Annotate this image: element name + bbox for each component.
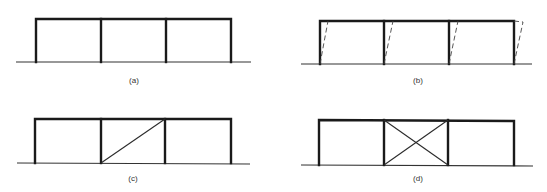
deformed-column-2 [384,21,393,64]
panel-a: (a) [16,19,251,85]
panel-d: (d) [301,120,533,183]
deformed-beam-end [514,21,523,22]
panel-label-d: (d) [413,174,423,183]
deformed-column-4 [514,22,523,64]
panel-c: (c) [17,119,250,183]
panel-label-b: (b) [413,76,423,85]
diagonal-brace [101,119,165,163]
panel-label-c: (c) [128,174,138,183]
panel-b: (b) [301,21,532,85]
frame-outline [320,21,514,64]
frame-bracing-diagram: (a) (b) (c) (d) [0,0,547,192]
frame-outline [36,19,231,62]
panel-label-a: (a) [129,76,139,85]
ground-line [17,163,250,164]
ground-line [301,165,533,166]
deformed-column-3 [449,21,458,64]
